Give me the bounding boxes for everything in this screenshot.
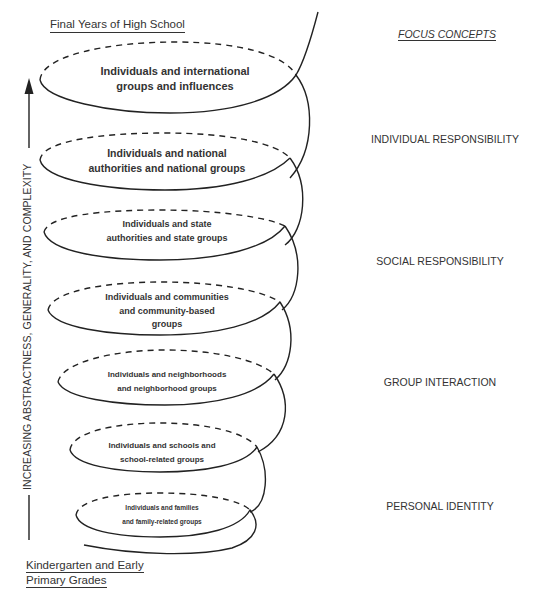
loop-6-line-1: Individuals and schools and bbox=[47, 439, 277, 453]
bottom-label-line-2: Primary Grades bbox=[26, 573, 107, 588]
spiral-descent-3 bbox=[282, 226, 298, 310]
loop-3-line-1: Individuals and state bbox=[52, 217, 282, 231]
loop-4-line-3: groups bbox=[52, 318, 282, 332]
focus-concept-individual-responsibility: INDIVIDUAL RESPONSIBILITY bbox=[355, 133, 534, 145]
spiral-loop-7-label: Individuals and families and family-rela… bbox=[47, 501, 277, 529]
loop-1-line-1: Individuals and international bbox=[60, 64, 290, 79]
loop-3-line-2: authorities and state groups bbox=[52, 231, 282, 245]
loop-2-line-2: authorities and national groups bbox=[52, 161, 282, 176]
bottom-label: Kindergarten and Early Primary Grades bbox=[26, 558, 144, 588]
focus-concept-social-responsibility: SOCIAL RESPONSIBILITY bbox=[350, 255, 530, 267]
spiral-loop-2-label: Individuals and national authorities and… bbox=[52, 146, 282, 176]
loop-5-line-2: and neighborhood groups bbox=[52, 382, 282, 396]
spiral-loop-1-label: Individuals and international groups and… bbox=[60, 64, 290, 94]
loop-4-line-2: and community-based bbox=[52, 305, 282, 319]
focus-concepts-title: FOCUS CONCEPTS bbox=[398, 28, 496, 41]
loop-4-line-1: Individuals and communities bbox=[52, 291, 282, 305]
axis-label: INCREASING ABSTRACTNESS, GENERALITY, AND… bbox=[21, 164, 33, 490]
loop-1-line-2: groups and influences bbox=[60, 79, 290, 94]
up-arrow-icon bbox=[25, 78, 34, 94]
spiral-loop-5-label: Individuals and neighborhoods and neighb… bbox=[52, 368, 282, 396]
spiral-loop-6-label: Individuals and schools and school-relat… bbox=[47, 439, 277, 467]
loop-6-line-2: school-related groups bbox=[47, 453, 277, 467]
focus-concept-group-interaction: GROUP INTERACTION bbox=[350, 376, 530, 388]
loop-2-line-1: Individuals and national bbox=[52, 146, 282, 161]
spiral-loop-3-label: Individuals and state authorities and st… bbox=[52, 217, 282, 245]
loop-7-line-2: and family-related groups bbox=[47, 515, 277, 529]
spiral-loop-4-label: Individuals and communities and communit… bbox=[52, 291, 282, 332]
loop-7-line-1: Individuals and families bbox=[47, 501, 277, 515]
loop-5-line-1: Individuals and neighborhoods bbox=[52, 368, 282, 382]
focus-concept-personal-identity: PERSONAL IDENTITY bbox=[350, 500, 530, 512]
spiral-descent-2 bbox=[285, 158, 303, 245]
bottom-label-line-1: Kindergarten and Early bbox=[26, 558, 144, 573]
top-label: Final Years of High School bbox=[50, 18, 185, 33]
